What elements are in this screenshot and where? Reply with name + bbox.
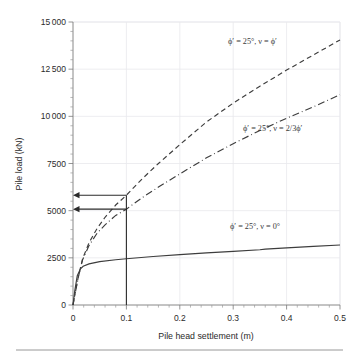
x-tick-label: 0.4: [281, 313, 293, 323]
x-tick-label: 0: [71, 313, 76, 323]
construction-arrow-head: [73, 192, 80, 198]
y-axis-title: Pile load (kN): [14, 138, 24, 191]
y-axis-major-ticks: [69, 22, 74, 305]
annotation-upper-curve: ϕ′ = 25°, ν = ϕ′: [228, 37, 277, 46]
y-tick-label: 7500: [47, 159, 66, 169]
series-line: [73, 245, 340, 305]
horizontal-gridlines: [73, 22, 340, 258]
y-tick-label: 15 000: [41, 17, 67, 27]
x-tick-label: 0.5: [334, 313, 346, 323]
y-tick-label: 10 000: [41, 111, 67, 121]
construction-lines-group: [73, 192, 126, 305]
construction-arrow-head: [73, 206, 80, 212]
x-axis-major-ticks: [73, 305, 340, 310]
x-tick-label: 0.3: [227, 313, 239, 323]
pile-load-settlement-figure: 025005000750010 00012 50015 000 00.10.20…: [0, 0, 359, 354]
x-tick-label: 0.1: [120, 313, 132, 323]
series-line: [73, 40, 340, 305]
y-axis-tick-labels: 025005000750010 00012 50015 000: [41, 17, 67, 310]
y-tick-label: 5000: [47, 206, 66, 216]
annotation-lower-curve: ϕ′ = 25°, ν = 0°: [230, 222, 280, 231]
y-tick-label: 12 500: [41, 64, 67, 74]
x-axis-title: Pile head settlement (m): [158, 331, 253, 341]
y-tick-label: 0: [61, 300, 66, 310]
annotation-middle-curve: ϕ′ = 25°, ν = 2/3ϕ′: [243, 124, 303, 133]
x-tick-label: 0.2: [174, 313, 186, 323]
x-axis-tick-labels: 00.10.20.30.40.5: [71, 313, 347, 323]
y-tick-label: 2500: [47, 253, 66, 263]
data-series-group: [73, 40, 340, 305]
chart-canvas: 025005000750010 00012 50015 000 00.10.20…: [0, 0, 359, 354]
